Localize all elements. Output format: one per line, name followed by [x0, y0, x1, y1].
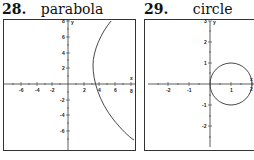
panel-29-label: circle: [193, 1, 233, 17]
svg-text:-6: -6: [19, 87, 24, 93]
panel-29-title: 29. circle: [144, 1, 232, 17]
x-tick-labels: -2 -1 1 2 x: [166, 76, 253, 93]
svg-text:x: x: [130, 75, 133, 81]
svg-text:-1: -1: [187, 87, 192, 93]
parabola-plot: -6 -4 -2 2 4 6 8 x 8 y 6 4 2 -2 -4 -6: [3, 19, 136, 152]
svg-text:4: 4: [62, 50, 65, 56]
svg-text:6: 6: [62, 34, 65, 40]
svg-text:8: 8: [130, 88, 133, 94]
svg-text:1: 1: [204, 60, 207, 66]
panel-28-number: 28.: [2, 1, 26, 17]
y-tick-labels: 8 y 6 4 2 -2 -4 -6: [60, 19, 74, 134]
panel-28-title: 28. parabola: [2, 1, 103, 17]
circle-plot: -2 -1 1 2 x 3 y 2 1 -1 -2: [144, 19, 254, 152]
svg-text:-6: -6: [60, 128, 65, 134]
svg-text:-4: -4: [35, 87, 40, 93]
svg-text:-2: -2: [50, 87, 55, 93]
svg-text:2: 2: [62, 65, 65, 71]
svg-text:4: 4: [98, 87, 101, 93]
parabola-curve: [93, 21, 134, 140]
svg-text:8: 8: [62, 19, 65, 24]
panel-29-number: 29.: [144, 1, 168, 17]
svg-text:-4: -4: [60, 112, 65, 118]
svg-text:6: 6: [114, 87, 117, 93]
svg-text:3: 3: [204, 19, 207, 24]
svg-text:-2: -2: [60, 97, 65, 103]
svg-text:1: 1: [230, 87, 233, 93]
svg-text:y: y: [71, 19, 74, 25]
panel-28-label: parabola: [41, 1, 104, 17]
svg-text:-2: -2: [202, 123, 207, 129]
svg-text:2: 2: [204, 39, 207, 45]
svg-text:-2: -2: [166, 87, 171, 93]
svg-text:y: y: [213, 19, 216, 25]
y-tick-labels: 3 y 2 1 -1 -2: [202, 19, 216, 129]
svg-text:2: 2: [83, 87, 86, 93]
svg-text:-1: -1: [202, 102, 207, 108]
